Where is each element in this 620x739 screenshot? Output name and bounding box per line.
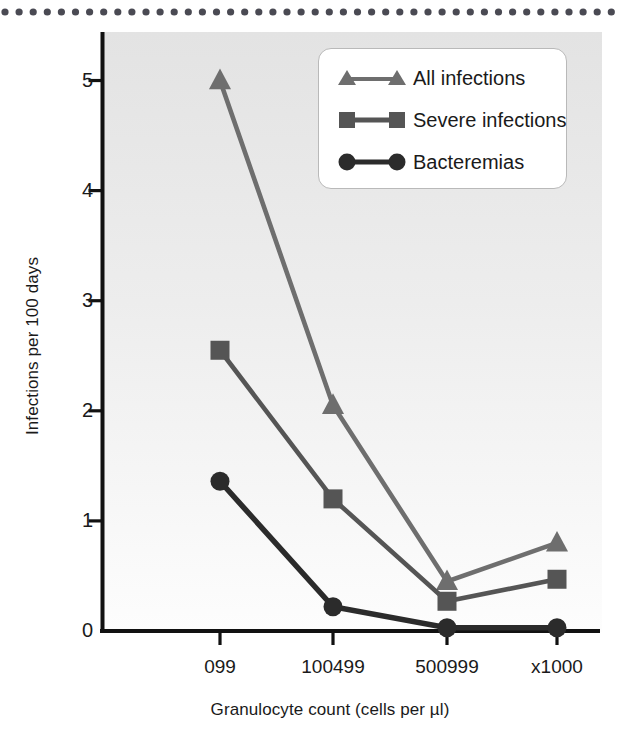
square-data-marker: [548, 570, 567, 589]
y-axis-tick-labels: 012345: [45, 18, 93, 678]
legend-item-all-infections: All infections: [335, 63, 525, 93]
y-axis-title: Infections per 100 days: [23, 196, 43, 496]
chart-legend: All infections Severe infections Bactere…: [318, 48, 567, 189]
y-tick-label: 0: [53, 620, 93, 640]
y-tick-label: 4: [53, 180, 93, 200]
x-tick-label: 500999: [415, 656, 478, 678]
x-tick-label: 100499: [301, 656, 364, 678]
circle-marker-icon: [335, 149, 409, 175]
y-tick-label: 5: [53, 70, 93, 90]
x-tick-label: 099: [204, 656, 236, 678]
circle-data-marker: [438, 618, 457, 637]
y-tick-label: 3: [53, 290, 93, 310]
legend-item-bacteremias: Bacteremias: [335, 147, 524, 177]
top-dotted-rule: [0, 6, 620, 18]
circle-data-marker: [548, 618, 567, 637]
circle-data-marker: [211, 472, 230, 491]
chart-figure: 012345 099100499500999x1000 Infections p…: [0, 18, 620, 739]
y-tick-label: 1: [53, 510, 93, 530]
square-data-marker: [211, 341, 230, 360]
x-axis-tick-labels: 099100499500999x1000: [0, 656, 620, 686]
legend-item-severe-infections: Severe infections: [335, 105, 566, 135]
legend-label-all-infections: All infections: [413, 67, 525, 89]
triangle-marker-icon: [335, 65, 409, 91]
square-data-marker: [324, 489, 343, 508]
legend-label-severe-infections: Severe infections: [413, 109, 566, 131]
y-tick-label: 2: [53, 400, 93, 420]
circle-data-marker: [324, 597, 343, 616]
square-marker-icon: [335, 107, 409, 133]
x-tick-label: x1000: [531, 656, 583, 678]
x-axis-ticks: [220, 631, 557, 645]
x-axis-title: Granulocyte count (cells per µl): [90, 700, 570, 720]
legend-label-bacteremias: Bacteremias: [413, 151, 524, 173]
square-data-marker: [438, 592, 457, 611]
